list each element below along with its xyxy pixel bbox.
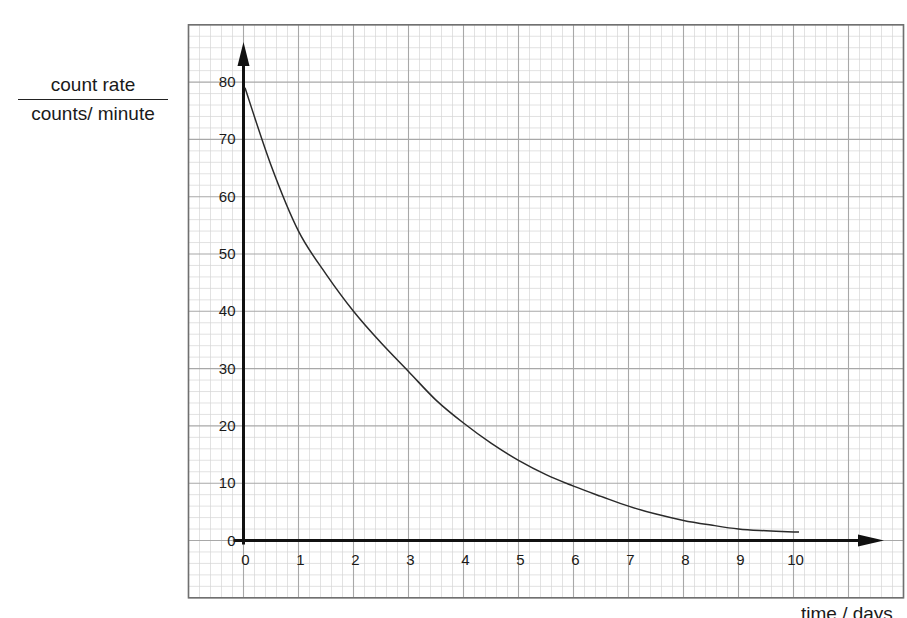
x-tick-label: 10 bbox=[787, 551, 804, 568]
x-tick-label: 4 bbox=[461, 551, 469, 568]
x-tick-label: 0 bbox=[241, 551, 249, 568]
x-tick-label: 2 bbox=[351, 551, 359, 568]
x-tick-label: 7 bbox=[626, 551, 634, 568]
x-tick-labels: 012345678910 bbox=[241, 551, 804, 568]
x-axis-arrow-icon bbox=[858, 535, 884, 547]
x-tick-label: 5 bbox=[516, 551, 524, 568]
y-tick-labels: 01020304050607080 bbox=[219, 73, 236, 548]
y-tick-label: 0 bbox=[227, 532, 235, 549]
x-axis-label: time / days bbox=[801, 603, 893, 618]
chart-stage: 01020304050607080 012345678910 count rat… bbox=[0, 0, 907, 618]
major-grid bbox=[189, 25, 904, 598]
x-tick-label: 6 bbox=[571, 551, 579, 568]
y-tick-label: 70 bbox=[219, 130, 236, 147]
x-tick-label: 8 bbox=[681, 551, 689, 568]
x-tick-label: 1 bbox=[296, 551, 304, 568]
y-tick-label: 10 bbox=[219, 474, 236, 491]
y-axis-label-unit: counts/ minute bbox=[18, 100, 168, 125]
y-tick-label: 40 bbox=[219, 302, 236, 319]
y-tick-label: 30 bbox=[219, 360, 236, 377]
y-axis-label-quantity: count rate bbox=[18, 74, 168, 100]
decay-curve bbox=[245, 88, 799, 532]
axes bbox=[234, 42, 885, 547]
x-tick-label: 9 bbox=[736, 551, 744, 568]
y-tick-label: 60 bbox=[219, 188, 236, 205]
y-axis-arrow-icon bbox=[238, 42, 250, 66]
y-tick-label: 80 bbox=[219, 73, 236, 90]
y-tick-label: 50 bbox=[219, 245, 236, 262]
y-axis-label: count rate counts/ minute bbox=[18, 74, 168, 125]
y-tick-label: 20 bbox=[219, 417, 236, 434]
x-tick-label: 3 bbox=[406, 551, 414, 568]
